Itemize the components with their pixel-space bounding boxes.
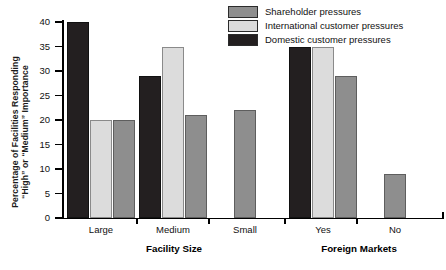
y-tick-5	[55, 193, 62, 195]
y-axis-title-line1: Percentage of Facilities Responding	[9, 56, 20, 208]
y-tick-40	[55, 21, 62, 23]
y-tick-label-35: 35	[0, 42, 50, 52]
bar-no-share	[384, 174, 406, 218]
y-tick-10	[55, 168, 62, 170]
x-group-label-foreign-markets: Foreign Markets	[288, 243, 430, 254]
x-category-medium: Medium	[138, 224, 208, 235]
legend-swatch-shareholder	[228, 6, 258, 18]
x-category-no: No	[360, 224, 430, 235]
bar-medium-share	[185, 115, 207, 218]
bar-medium-dom	[139, 76, 161, 218]
bar-large-dom	[67, 22, 89, 218]
bar-large-share	[113, 120, 135, 218]
y-axis-title: Percentage of Facilities Responding “Hig…	[8, 25, 32, 240]
y-tick-label-40: 40	[0, 17, 50, 27]
y-tick-30	[55, 70, 62, 72]
y-tick-label-10: 10	[0, 164, 50, 174]
y-tick-label-15: 15	[0, 140, 50, 150]
legend-item-shareholder: Shareholder pressures	[228, 5, 443, 18]
y-tick-label-30: 30	[0, 66, 50, 76]
bar-small-share	[234, 110, 256, 218]
bar-medium-intl	[162, 47, 184, 219]
plot-area	[62, 22, 443, 218]
y-tick-label-20: 20	[0, 115, 50, 125]
y-axis-title-line2: “High” or “Medium” Importance	[20, 65, 31, 199]
chart-figure: Shareholder pressures International cust…	[0, 0, 446, 270]
x-category-large: Large	[66, 224, 136, 235]
legend-label-shareholder: Shareholder pressures	[265, 7, 361, 17]
x-category-small: Small	[210, 224, 280, 235]
bar-yes-share	[335, 76, 357, 218]
y-tick-0	[55, 217, 62, 219]
x-tick-2	[284, 219, 286, 224]
y-tick-15	[55, 144, 62, 146]
x-group-label-facility-size: Facility Size	[66, 243, 282, 254]
y-tick-label-25: 25	[0, 91, 50, 101]
y-tick-35	[55, 46, 62, 48]
bar-large-intl	[90, 120, 112, 218]
y-tick-20	[55, 119, 62, 121]
y-tick-25	[55, 95, 62, 97]
bar-yes-intl	[312, 47, 334, 219]
y-tick-label-0: 0	[0, 213, 50, 223]
y-tick-label-5: 5	[0, 189, 50, 199]
x-category-yes: Yes	[288, 224, 358, 235]
bar-yes-dom	[289, 47, 311, 219]
